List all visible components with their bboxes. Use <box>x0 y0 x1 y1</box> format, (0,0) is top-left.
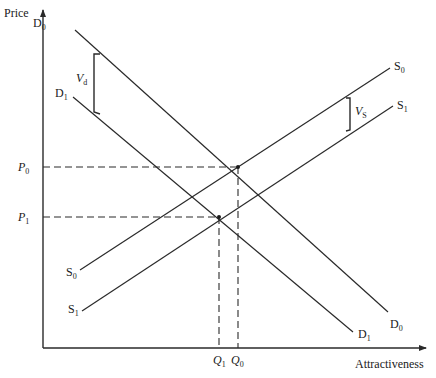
p1-label: P1 <box>17 210 29 226</box>
supply-curve-s0 <box>80 68 390 270</box>
s1-label-bottom: S1 <box>68 302 79 318</box>
vd-label: Vd <box>76 71 87 87</box>
x-axis-label: Attractiveness <box>355 357 424 371</box>
supply-demand-diagram: Price Attractiveness D0 D0 D1 D1 S0 S0 S… <box>0 0 436 378</box>
d0-label-bottom: D0 <box>390 317 403 333</box>
d1-label-bottom: D1 <box>358 327 371 343</box>
vs-shift-bracket <box>346 98 350 131</box>
s0-label-bottom: S0 <box>66 265 77 281</box>
s1-label-top: S1 <box>397 98 408 114</box>
d1-label-top: D1 <box>55 86 68 102</box>
p0-label: P0 <box>17 160 29 176</box>
y-axis-label: Price <box>4 6 29 20</box>
demand-curve-d1 <box>73 97 353 332</box>
equilibrium-point-1 <box>217 215 221 219</box>
s0-label-top: S0 <box>394 59 405 75</box>
q1-label: Q1 <box>213 353 226 369</box>
vd-shift-bracket <box>94 54 100 114</box>
q0-label: Q0 <box>231 353 244 369</box>
d0-label-top: D0 <box>33 16 46 32</box>
vs-label: VS <box>355 104 367 120</box>
equilibrium-point-0 <box>236 165 240 169</box>
